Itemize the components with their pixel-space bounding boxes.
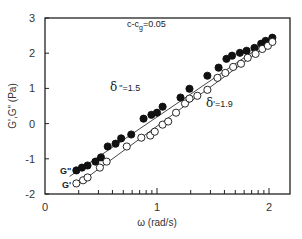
data-point-g-prime (214, 74, 221, 81)
data-point-g-prime (123, 143, 130, 150)
data-point-g-double-prime (159, 103, 166, 110)
data-point-g-prime (186, 95, 193, 102)
data-point-g-double-prime (84, 162, 91, 169)
data-point-g-prime (252, 50, 259, 57)
x-axis-label: ω (rad/s) (137, 217, 176, 228)
y-axis-label: G',G" (Pa) (7, 83, 18, 128)
data-point-g-double-prime (236, 49, 243, 56)
y-tick-label: 1 (29, 82, 35, 94)
data-point-g-double-prime (153, 109, 160, 116)
series-label-g-prime: G' (62, 180, 71, 190)
data-point-g-double-prime (112, 140, 119, 147)
data-point-g-double-prime (118, 135, 125, 142)
series-label-g-double-prime: G" (60, 166, 71, 176)
x-tick-label: 2 (266, 201, 272, 213)
annotation-delta-double-prime-value: "=1.5 (119, 83, 140, 93)
data-points (73, 34, 276, 187)
data-point-g-prime (244, 54, 251, 61)
data-point-g-prime (165, 118, 172, 125)
delta-symbol: δ (110, 80, 117, 94)
data-point-g-prime (237, 60, 244, 67)
data-point-g-prime (138, 134, 145, 141)
data-point-g-double-prime (228, 52, 235, 59)
chart: -2-10123012 ω (rad/s) G',G" (Pa) c-cg=0.… (0, 0, 302, 239)
data-point-g-prime (222, 69, 229, 76)
data-point-g-double-prime (215, 64, 222, 71)
data-point-g-double-prime (128, 131, 135, 138)
annotation-delta-double-prime: δ"=1.5 (110, 80, 140, 94)
data-point-g-prime (172, 109, 179, 116)
delta-symbol: δ (206, 96, 213, 110)
annotation-concentration-value: =0.05 (143, 19, 166, 29)
data-point-g-double-prime (204, 72, 211, 79)
data-point-g-prime (151, 128, 158, 135)
annotation-concentration-main: c-c (127, 19, 139, 29)
y-tick-label: -1 (25, 153, 35, 165)
data-point-g-prime (96, 164, 103, 171)
data-point-g-prime (84, 174, 91, 181)
data-point-g-prime (194, 92, 201, 99)
y-tick-label: -2 (25, 188, 35, 200)
data-point-g-double-prime (104, 143, 111, 150)
annotation-delta-prime: δ'=1.9 (206, 96, 233, 110)
data-point-g-prime (73, 180, 80, 187)
x-tick-label: 1 (154, 201, 160, 213)
y-tick-label: 3 (29, 12, 35, 24)
data-point-g-double-prime (140, 115, 147, 122)
data-point-g-prime (230, 63, 237, 70)
annotation-concentration: c-cg=0.05 (127, 19, 166, 32)
y-tick-label: 2 (29, 47, 35, 59)
data-point-g-double-prime (186, 85, 193, 92)
annotation-delta-prime-value: '=1.9 (213, 99, 233, 109)
y-tick-label: 0 (29, 118, 35, 130)
data-point-g-prime (204, 86, 211, 93)
data-point-g-double-prime (243, 47, 250, 54)
data-point-g-prime (103, 158, 110, 165)
x-tick-label: 0 (42, 201, 48, 213)
data-point-g-prime (269, 38, 276, 45)
